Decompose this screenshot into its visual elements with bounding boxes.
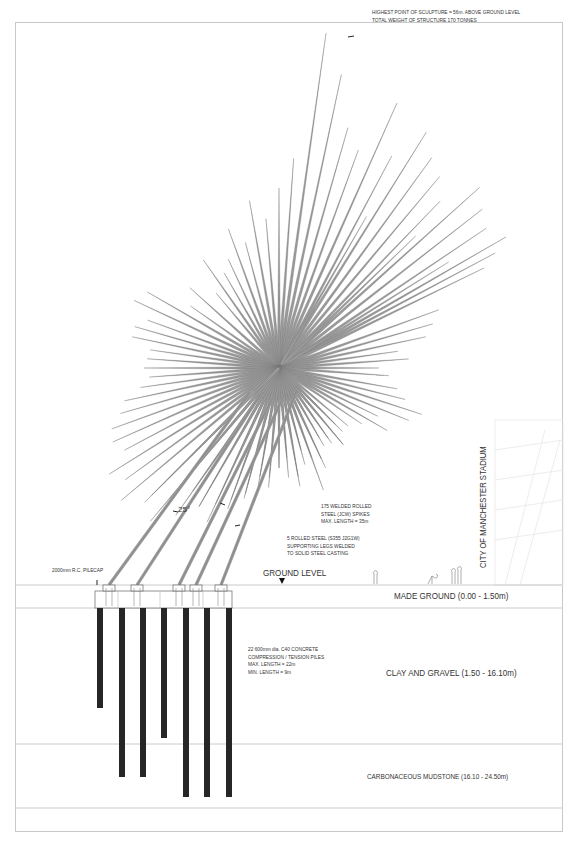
spikes-note-line1: 175 WELDED ROLLED — [321, 503, 371, 511]
ground-level-marker-icon — [279, 578, 285, 584]
spikes-note-line3: MAX. LENGTH = 35m — [321, 518, 371, 526]
stadium-label: CITY OF MANCHESTER STADIUM — [478, 446, 488, 568]
pile — [140, 608, 146, 777]
concrete-piles — [97, 608, 232, 797]
piles-note-line4: MIN. LENGTH = 9m — [248, 669, 324, 677]
legs-note-line2: SUPPORTING LEGS WELDED — [287, 543, 360, 551]
pile — [204, 608, 210, 797]
pile — [161, 608, 167, 738]
piles-note: 22 600mm dia. C40 CONCRETE COMPRESSION /… — [248, 646, 324, 676]
height-note: HIGHEST POINT OF SCULPTURE = 56m. ABOVE … — [372, 9, 520, 24]
legs-note-line3: TO SOLID STEEL CASTING — [287, 550, 360, 558]
legs-note: 5 ROLLED STEEL (S355 J2G1W) SUPPORTING L… — [287, 535, 360, 558]
height-note-line1: HIGHEST POINT OF SCULPTURE = 56m. ABOVE … — [372, 9, 520, 17]
spikes-note: 175 WELDED ROLLED STEEL (JCW) SPIKES MAX… — [321, 503, 371, 526]
pilecap-label: 2000mm R.C. PILECAP — [52, 567, 103, 575]
pile — [183, 608, 189, 797]
spikes-note-line2: STEEL (JCW) SPIKES — [321, 511, 371, 519]
height-note-line2: TOTAL WEIGHT OF STRUCTURE 170 TONNES — [372, 17, 520, 25]
spike — [278, 187, 480, 369]
angle-label: 25° — [178, 505, 190, 514]
pile — [119, 608, 125, 777]
ground-level-label: GROUND LEVEL — [263, 567, 326, 578]
people-silhouettes — [374, 567, 462, 584]
piles-note-line3: MAX. LENGTH = 22m — [248, 661, 324, 669]
steel-spikes — [109, 33, 506, 522]
piles-note-line1: 22 600mm dia. C40 CONCRETE — [248, 646, 324, 654]
layer-mudstone: CARBONACEOUS MUDSTONE (16.10 - 24.50m) — [367, 772, 508, 781]
pile — [226, 608, 232, 797]
pile — [97, 608, 103, 708]
layer-made-ground: MADE GROUND (0.00 - 1.50m) — [394, 590, 508, 601]
stadium-outline — [495, 420, 563, 585]
supporting-legs — [109, 392, 296, 585]
sculpture-section-drawing — [0, 0, 580, 856]
legs-note-line1: 5 ROLLED STEEL (S355 J2G1W) — [287, 535, 360, 543]
piles-note-line2: COMPRESSION / TENSION PILES — [248, 654, 324, 662]
pilecap — [95, 585, 232, 608]
layer-clay-gravel: CLAY AND GRAVEL (1.50 - 16.10m) — [386, 667, 517, 678]
